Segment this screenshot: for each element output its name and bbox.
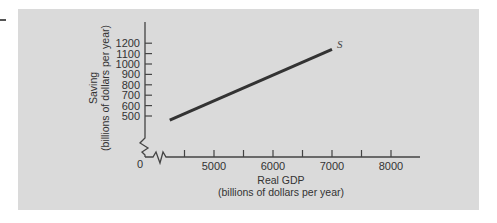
saving-function-chart: Saving (billions of dollars per year) 50… <box>0 0 497 223</box>
y-tick-label: 500 <box>122 110 140 122</box>
y-tick-label: 1100 <box>116 48 140 60</box>
saving-curve-label: S <box>337 38 343 50</box>
x-tick-label: 5000 <box>202 160 226 172</box>
y-axis-label: Saving <box>87 72 99 104</box>
y-tick-label: 900 <box>122 68 140 80</box>
y-axis-line <box>140 22 148 157</box>
y-axis-title: Saving (billions of dollars per year) <box>87 25 111 151</box>
y-tick-label: 1200 <box>116 37 140 49</box>
y-axis-sublabel: (billions of dollars per year) <box>99 25 111 151</box>
origin-label: 0 <box>137 158 143 170</box>
y-tick-label: 800 <box>122 79 140 91</box>
x-axis-label: Real GDP <box>257 174 304 186</box>
x-tick-label: 6000 <box>261 160 285 172</box>
x-tick-label: 7000 <box>320 160 344 172</box>
x-tick-label: 8000 <box>379 160 403 172</box>
y-tick-label: 700 <box>122 89 140 101</box>
y-tick-label: 600 <box>122 100 140 112</box>
saving-curve <box>170 49 332 120</box>
x-axis-ticks: 5000600070008000 <box>185 150 404 172</box>
y-axis-ticks: 500600700800900100011001200 <box>116 37 152 122</box>
y-tick-label: 1000 <box>116 58 140 70</box>
x-axis-sublabel: (billions of dollars per year) <box>218 186 344 198</box>
